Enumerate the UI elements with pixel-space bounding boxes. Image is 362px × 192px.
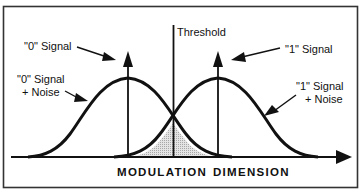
one-signal-noise-curve — [114, 78, 318, 157]
one-noise-pointer-arrowhead-icon — [264, 105, 279, 116]
one-signal-arrowhead-icon — [213, 51, 223, 67]
one-signal-label: "1" Signal — [285, 43, 333, 55]
one-noise-pointer — [274, 95, 296, 111]
zero-signal-noise-label-line1: "0" Signal — [17, 73, 65, 85]
one-signal-pointer — [242, 48, 280, 57]
one-signal-noise-label-line2: + Noise — [305, 93, 343, 105]
zero-signal-pointer-arrowhead-icon — [102, 52, 116, 61]
one-signal-pointer-arrowhead-icon — [231, 52, 246, 62]
zero-signal-pointer — [77, 47, 107, 57]
zero-signal-label: "0" Signal — [24, 40, 72, 52]
axis-label-modulation: MODULATION — [117, 166, 207, 178]
zero-noise-pointer-arrowhead-icon — [74, 93, 88, 102]
zero-signal-noise-label-line2: + Noise — [22, 86, 60, 98]
axis-label-dimension: DIMENSION — [213, 166, 290, 178]
one-signal-noise-label-line1: "1" Signal — [296, 80, 344, 92]
threshold-label: Threshold — [177, 26, 226, 38]
axis-arrowhead-icon — [336, 150, 352, 164]
signal-detection-diagram: Threshold "0" Signal "0" Signal + Noise … — [0, 0, 362, 192]
zero-signal-arrowhead-icon — [123, 51, 133, 67]
